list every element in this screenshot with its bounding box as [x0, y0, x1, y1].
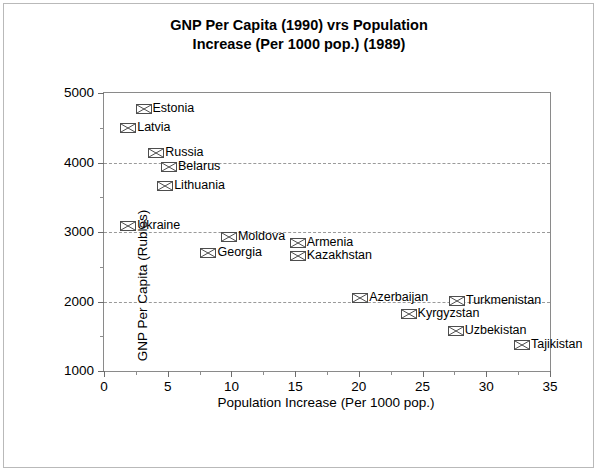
- square-x-marker-icon: [449, 296, 465, 306]
- data-point-label: Belarus: [178, 159, 220, 174]
- x-tick-major: [359, 371, 360, 377]
- square-x-marker-icon: [290, 238, 306, 248]
- x-tick-minor: [263, 371, 264, 375]
- y-tick-label: 3000: [34, 225, 94, 239]
- y-tick-minor: [100, 128, 104, 129]
- x-tick-label: 0: [84, 379, 124, 394]
- x-tick-major: [486, 371, 487, 377]
- x-tick-minor: [391, 371, 392, 375]
- data-point-label: Azerbaijan: [369, 290, 428, 305]
- data-point-label: Turkmenistan: [466, 293, 541, 308]
- square-x-marker-icon: [120, 123, 136, 133]
- chart-figure: GNP Per Capita (1990) vrs Population Inc…: [0, 0, 598, 472]
- x-tick-label: 25: [403, 379, 443, 394]
- square-x-marker-icon: [200, 248, 216, 258]
- y-axis-title: GNP Per Capita (Rubles): [135, 136, 150, 436]
- x-tick-minor: [518, 371, 519, 375]
- plot-area: 10002000300040005000 05101520253035 Esto…: [103, 92, 551, 372]
- x-tick-major: [168, 371, 169, 377]
- square-x-marker-icon: [352, 293, 368, 303]
- square-x-marker-icon: [136, 104, 152, 114]
- x-tick-major: [550, 371, 551, 377]
- data-point-label: Lithuania: [174, 178, 225, 193]
- x-tick-label: 20: [339, 379, 379, 394]
- square-x-marker-icon: [157, 181, 173, 191]
- data-point-label: Tajikistan: [531, 337, 582, 352]
- x-tick-label: 5: [148, 379, 188, 394]
- y-tick-major: [98, 232, 104, 233]
- data-point-label: Kazakhstan: [307, 248, 372, 263]
- y-tick-label: 1000: [34, 364, 94, 378]
- y-tick-major: [98, 93, 104, 94]
- y-tick-label: 4000: [34, 156, 94, 170]
- y-tick-minor: [100, 336, 104, 337]
- y-tick-label: 5000: [34, 86, 94, 100]
- x-tick-minor: [454, 371, 455, 375]
- chart-title: GNP Per Capita (1990) vrs Population Inc…: [0, 16, 598, 54]
- square-x-marker-icon: [514, 340, 530, 350]
- square-x-marker-icon: [148, 148, 164, 158]
- square-x-marker-icon: [161, 162, 177, 172]
- x-tick-minor: [327, 371, 328, 375]
- x-tick-label: 35: [530, 379, 570, 394]
- x-tick-label: 30: [466, 379, 506, 394]
- y-tick-major: [98, 163, 104, 164]
- data-point-label: Kyrgyzstan: [418, 306, 480, 321]
- square-x-marker-icon: [290, 251, 306, 261]
- x-tick-major: [231, 371, 232, 377]
- y-tick-major: [98, 302, 104, 303]
- square-x-marker-icon: [221, 232, 237, 242]
- square-x-marker-icon: [401, 309, 417, 319]
- y-tick-minor: [100, 197, 104, 198]
- square-x-marker-icon: [448, 326, 464, 336]
- x-axis-title: Population Increase (Per 1000 pop.): [103, 395, 549, 410]
- x-tick-major: [104, 371, 105, 377]
- data-point-label: Latvia: [137, 120, 170, 135]
- x-tick-label: 15: [275, 379, 315, 394]
- data-point-label: Estonia: [153, 101, 195, 116]
- data-point-label: Moldova: [238, 229, 285, 244]
- data-point-label: Uzbekistan: [465, 323, 527, 338]
- x-tick-minor: [200, 371, 201, 375]
- data-point-label: Georgia: [217, 245, 261, 260]
- x-tick-label: 10: [211, 379, 251, 394]
- y-tick-label: 2000: [34, 295, 94, 309]
- y-tick-minor: [100, 267, 104, 268]
- x-tick-major: [295, 371, 296, 377]
- x-tick-major: [423, 371, 424, 377]
